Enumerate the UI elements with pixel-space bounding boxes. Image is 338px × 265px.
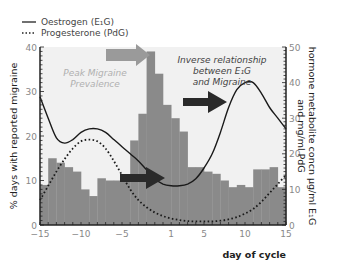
bar bbox=[65, 167, 74, 225]
bar bbox=[204, 172, 213, 225]
legend-progesterone-label: Progesterone (PdG) bbox=[41, 28, 129, 38]
y-tick-label: 30 bbox=[26, 87, 38, 97]
bar bbox=[270, 167, 279, 225]
y-tick-label: 40 bbox=[26, 43, 38, 53]
bar bbox=[196, 167, 205, 225]
bar bbox=[163, 105, 172, 225]
bar bbox=[155, 74, 164, 225]
y-tick-label: 10 bbox=[26, 176, 38, 186]
peak-migraine-text: Peak MigrainePrevalence bbox=[63, 68, 127, 89]
x-axis-title: day of cycle bbox=[222, 249, 286, 260]
bar bbox=[97, 178, 106, 225]
bar bbox=[114, 181, 123, 226]
y2-tick-label: 40 bbox=[289, 78, 301, 88]
migraine-hormone-chart: Oestrogen (E₁G) Progesterone (PdG) Peak … bbox=[0, 0, 338, 265]
x-tick-label: −15 bbox=[31, 229, 50, 239]
bar bbox=[245, 187, 254, 225]
x-tick-label: 5 bbox=[201, 229, 207, 239]
bar bbox=[106, 181, 115, 226]
bar bbox=[179, 132, 188, 225]
y2-axis-title-line1: hormone metabolite concn µg/ml E₁G bbox=[307, 47, 318, 226]
x-tick-label: −10 bbox=[72, 229, 91, 239]
bar bbox=[171, 118, 180, 225]
y2-axis-title-line2: and mg/ml PdG bbox=[296, 99, 307, 172]
bar bbox=[147, 51, 156, 225]
y-axis-title: % days with reported migraine bbox=[8, 62, 19, 209]
x-tick-label: 10 bbox=[239, 229, 251, 239]
bar bbox=[130, 140, 139, 225]
bar bbox=[220, 181, 229, 226]
y2-tick-label: 50 bbox=[289, 43, 301, 53]
bar bbox=[229, 187, 238, 225]
x-tick-label: −5 bbox=[115, 229, 128, 239]
x-tick-label: 1 bbox=[168, 229, 174, 239]
legend-oestrogen-label: Oestrogen (E₁G) bbox=[41, 17, 114, 27]
bar bbox=[56, 163, 65, 225]
x-tick-label: 15 bbox=[280, 229, 291, 239]
legend: Oestrogen (E₁G) Progesterone (PdG) bbox=[22, 17, 129, 38]
y-tick-label: 20 bbox=[26, 132, 38, 142]
bar bbox=[89, 196, 98, 225]
bar bbox=[48, 158, 57, 225]
bar bbox=[212, 174, 221, 225]
bar bbox=[73, 172, 82, 225]
y2-tick-label: 10 bbox=[289, 185, 301, 195]
bar bbox=[40, 185, 49, 225]
bar bbox=[81, 189, 90, 225]
bar bbox=[188, 167, 197, 225]
bar bbox=[237, 185, 246, 225]
bar bbox=[253, 169, 262, 225]
